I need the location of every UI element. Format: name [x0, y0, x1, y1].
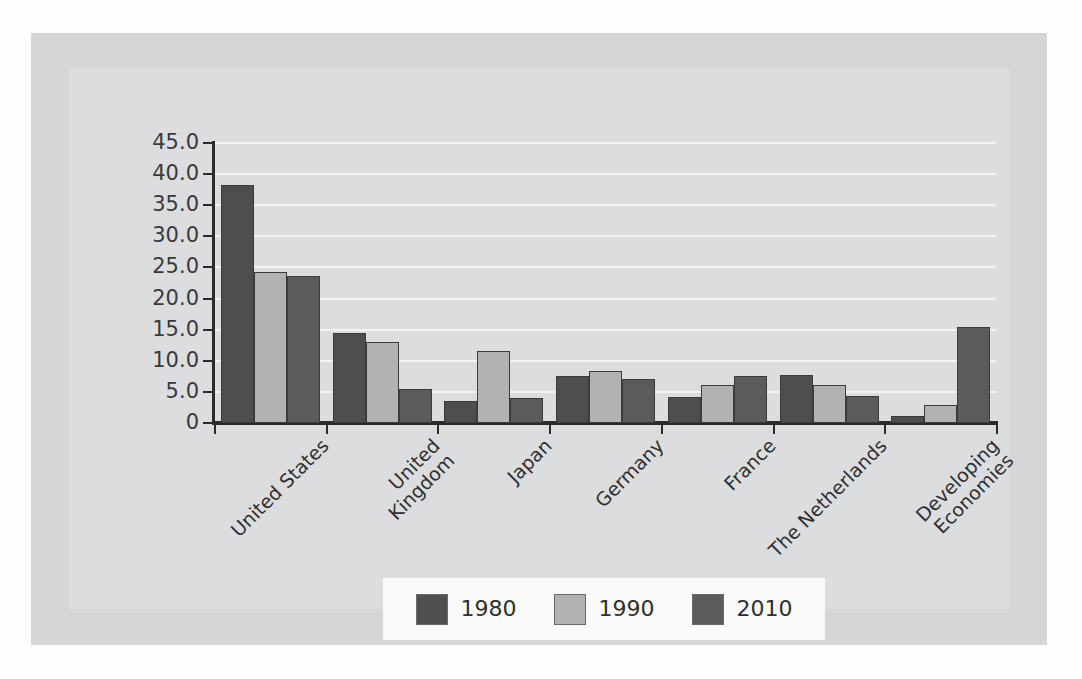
x-axis-tick	[884, 425, 886, 434]
legend-label: 1980	[461, 598, 517, 620]
legend-item[interactable]: 1980	[416, 594, 517, 625]
bar	[556, 376, 589, 423]
chart-page: 45.040.035.030.025.020.015.010.05.00 Uni…	[0, 0, 1082, 679]
y-axis-tick-label: 25.0	[152, 256, 199, 277]
bar	[780, 375, 813, 423]
x-axis-tick	[773, 425, 775, 434]
bar	[333, 333, 366, 423]
y-axis-tick-label: 0	[186, 412, 199, 433]
y-axis-tick-label: 20.0	[152, 288, 199, 309]
bar	[366, 342, 399, 423]
plot-area	[214, 143, 996, 423]
legend-item[interactable]: 1990	[554, 594, 655, 625]
bar	[254, 272, 287, 423]
x-axis-tick	[661, 425, 663, 434]
x-axis-tick	[549, 425, 551, 434]
legend-swatch-icon	[554, 594, 586, 625]
bar	[622, 379, 655, 423]
bar	[589, 371, 622, 423]
x-axis-tick	[214, 425, 216, 434]
bar	[734, 376, 767, 423]
x-axis-tick	[437, 425, 439, 434]
y-axis-tick-label: 30.0	[152, 225, 199, 246]
legend-item[interactable]: 2010	[692, 594, 793, 625]
y-axis-tick-label: 15.0	[152, 319, 199, 340]
bar	[510, 398, 543, 424]
y-axis-tick-label: 10.0	[152, 350, 199, 371]
bar	[891, 416, 924, 423]
x-axis-tick	[996, 425, 998, 434]
y-axis-tick-label: 35.0	[152, 194, 199, 215]
bar	[399, 389, 432, 423]
figure-frame: 45.040.035.030.025.020.015.010.05.00 Uni…	[31, 33, 1047, 645]
legend-label: 2010	[737, 598, 793, 620]
bar	[701, 385, 734, 423]
y-axis-tick-label: 5.0	[166, 381, 199, 402]
bar	[846, 396, 879, 423]
legend-label: 1990	[599, 598, 655, 620]
chart-legend: 198019902010	[383, 578, 825, 640]
bar	[221, 185, 254, 423]
bar	[477, 351, 510, 423]
bar	[444, 401, 477, 423]
bar	[813, 385, 846, 423]
y-axis-tick-label: 45.0	[152, 132, 199, 153]
y-axis-tick-label: 40.0	[152, 163, 199, 184]
bar	[668, 397, 701, 423]
legend-swatch-icon	[416, 594, 448, 625]
bar	[287, 276, 320, 423]
legend-swatch-icon	[692, 594, 724, 625]
bar	[957, 327, 990, 423]
bar	[924, 405, 957, 423]
x-axis-tick	[326, 425, 328, 434]
